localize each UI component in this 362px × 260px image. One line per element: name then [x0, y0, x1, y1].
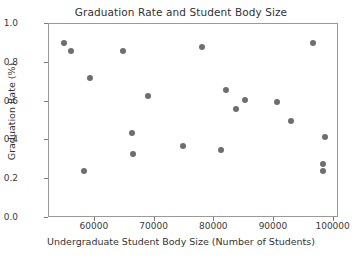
x-axis-tick-mark	[213, 217, 214, 221]
x-axis-tick-label: 70000	[139, 221, 168, 231]
data-point	[120, 48, 126, 54]
data-point	[199, 44, 205, 50]
data-point	[233, 106, 239, 112]
data-point	[320, 168, 326, 174]
data-point	[68, 48, 74, 54]
data-point	[288, 118, 294, 124]
y-axis-label: Graduation Rate (%)	[6, 32, 17, 192]
x-axis-tick-mark	[94, 217, 95, 221]
data-point	[81, 168, 87, 174]
x-axis-tick-label: 80000	[199, 221, 228, 231]
x-axis-tick-label: 60000	[80, 221, 109, 231]
data-point	[61, 40, 67, 46]
plot-area	[48, 23, 338, 217]
y-axis-tick-label: 0.0	[0, 212, 18, 222]
x-axis-tick-mark	[273, 217, 274, 221]
data-point	[322, 134, 328, 140]
data-point	[130, 151, 136, 157]
x-axis-tick-mark	[154, 217, 155, 221]
x-axis-label: Undergraduate Student Body Size (Number …	[0, 236, 362, 247]
y-axis-tick-label: 1.0	[0, 18, 18, 28]
data-point	[218, 147, 224, 153]
y-axis-tick-mark	[44, 217, 48, 218]
data-point	[180, 143, 186, 149]
data-point	[274, 99, 280, 105]
x-axis-tick-label: 90000	[259, 221, 288, 231]
data-point	[223, 87, 229, 93]
data-point	[87, 75, 93, 81]
data-point	[242, 97, 248, 103]
x-axis-tick-label: 100000	[315, 221, 349, 231]
data-point	[145, 93, 151, 99]
data-point	[310, 40, 316, 46]
data-point	[320, 161, 326, 167]
x-axis-tick-mark	[333, 217, 334, 221]
scatter-plot-figure: Graduation Rate and Student Body Size 0.…	[0, 0, 362, 260]
chart-title: Graduation Rate and Student Body Size	[0, 6, 362, 18]
data-point	[129, 130, 135, 136]
